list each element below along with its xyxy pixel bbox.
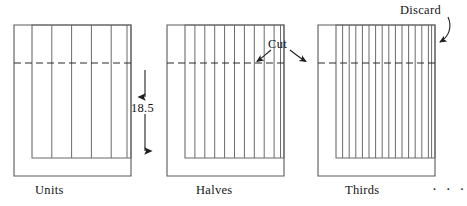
panel-halves — [167, 25, 284, 176]
diagram-svg — [0, 0, 467, 206]
thirds-strip-dividers — [343, 25, 429, 158]
halves-strip-dividers — [195, 25, 274, 158]
panel-label-units: Units — [35, 183, 64, 198]
continuation-ellipsis: · · · — [432, 181, 467, 198]
discard-label: Discard — [400, 3, 441, 18]
units-strip-dividers — [52, 25, 111, 158]
panel-thirds — [318, 25, 435, 176]
panel-label-halves: Halves — [196, 183, 233, 198]
discard-leader-arrow — [440, 17, 450, 42]
units-strip-block — [32, 25, 131, 158]
dimension-label: 18.5 — [131, 101, 154, 116]
cut-label: Cut — [268, 37, 287, 52]
diagram-canvas: Units Halves Thirds · · · Cut Discard 18… — [0, 0, 467, 206]
panel-label-thirds: Thirds — [345, 183, 379, 198]
panel-units — [14, 25, 131, 176]
thirds-strip-block — [336, 25, 435, 158]
